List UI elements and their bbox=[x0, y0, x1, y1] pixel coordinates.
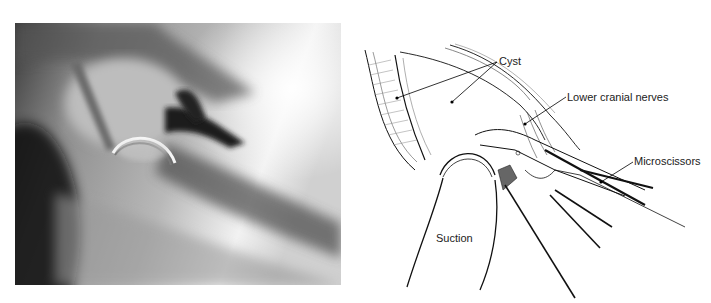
label-suction: Suction bbox=[436, 232, 473, 244]
label-microscissors: Microscissors bbox=[634, 155, 701, 167]
intraoperative-photo bbox=[15, 23, 341, 285]
label-lower-cranial-nerves: Lower cranial nerves bbox=[567, 91, 669, 103]
label-cyst: Cyst bbox=[499, 55, 521, 67]
illustration: Cyst Lower cranial nerves Microscissors … bbox=[355, 30, 711, 303]
photo-render bbox=[15, 23, 341, 285]
